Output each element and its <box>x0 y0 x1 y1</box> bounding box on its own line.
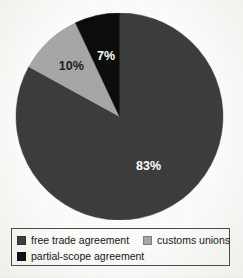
pie-chart-svg: 83%10%7% <box>15 13 224 220</box>
legend-item-partial-scope-agreement[interactable]: partial-scope agreement <box>17 250 144 262</box>
pie-chart-figure: 83%10%7% free trade agreementcustoms uni… <box>0 0 243 278</box>
legend-label: customs unions <box>157 234 230 246</box>
legend-label: free trade agreement <box>31 234 129 246</box>
legend-label: partial-scope agreement <box>31 250 144 262</box>
pie-slice-label-free-trade-agreement: 83% <box>136 159 161 173</box>
legend-row: free trade agreementcustoms unions <box>17 232 224 248</box>
legend-swatch-free-trade-agreement <box>17 236 26 245</box>
pie-chart-plot-area: 83%10%7% <box>15 13 224 220</box>
legend-row: partial-scope agreement <box>17 248 224 264</box>
pie-slices-group <box>16 13 223 220</box>
pie-slice-label-customs-unions: 10% <box>59 59 84 73</box>
chart-legend: free trade agreementcustoms unionspartia… <box>11 228 230 266</box>
legend-swatch-customs-unions <box>143 236 152 245</box>
legend-swatch-partial-scope-agreement <box>17 252 26 261</box>
legend-item-customs-unions[interactable]: customs unions <box>143 234 230 246</box>
pie-slice-label-partial-scope-agreement: 7% <box>97 49 115 63</box>
legend-item-free-trade-agreement[interactable]: free trade agreement <box>17 234 129 246</box>
